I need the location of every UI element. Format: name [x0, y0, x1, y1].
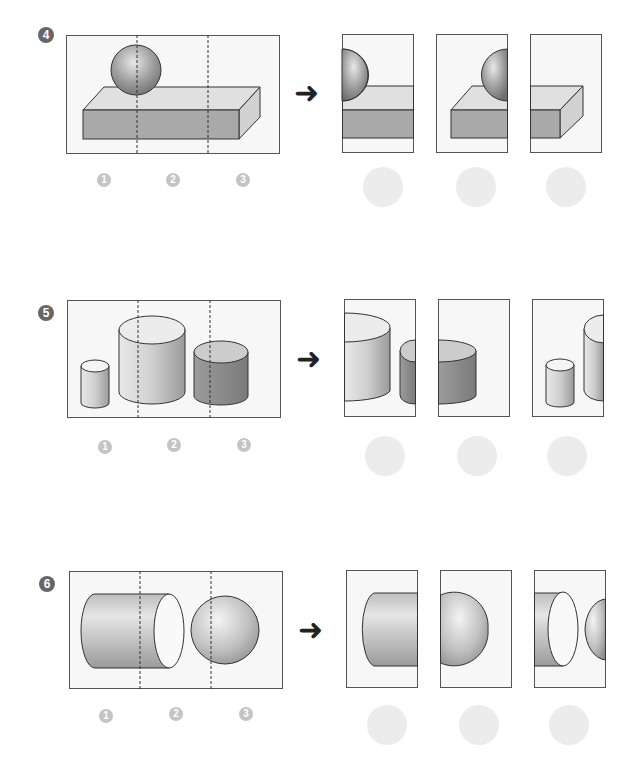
strip-c — [534, 570, 606, 688]
answer-slot-c[interactable] — [549, 705, 589, 745]
problem-number-badge: 6 — [39, 576, 55, 592]
answer-slot-b[interactable] — [459, 705, 499, 745]
option-label-2: 2 — [169, 707, 183, 721]
strip-b — [440, 570, 512, 688]
strip-a — [346, 570, 418, 688]
problem-6: 6 1 2 3 ➜ — [0, 0, 643, 780]
composite-figure — [69, 571, 283, 689]
answer-slot-a[interactable] — [367, 705, 407, 745]
option-label-3: 3 — [239, 707, 253, 721]
option-label-1: 1 — [99, 709, 113, 723]
arrow-icon: ➜ — [298, 615, 323, 645]
